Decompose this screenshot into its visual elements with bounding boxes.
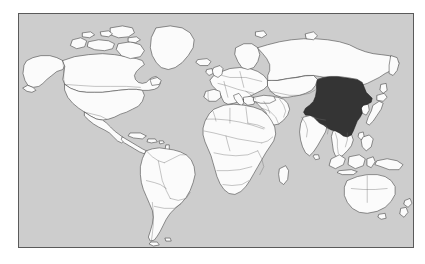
island-falklands	[165, 238, 171, 241]
arctic-islands-banks	[71, 38, 87, 49]
iberian-peninsula	[204, 89, 221, 101]
country-turkey	[254, 95, 276, 103]
world-map-svg	[19, 14, 413, 247]
island-hispaniola	[147, 139, 157, 143]
island-tasmania	[378, 213, 386, 219]
island-java	[337, 170, 357, 175]
island-iceland	[196, 59, 211, 66]
world-map-figure	[18, 13, 414, 248]
page-root	[0, 0, 425, 264]
